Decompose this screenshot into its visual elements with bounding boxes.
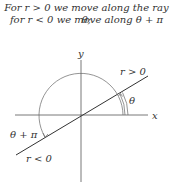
theta-label: θ [129,95,135,106]
x-axis-label: x [152,110,158,121]
ray-line [16,76,148,155]
theta-plus-pi-label: θ + π [10,129,38,140]
positive-ray-label: r > 0 [120,66,147,77]
negative-ray-label: r < 0 [26,153,53,164]
polar-ray-diagram: y x r > 0 θ θ + π r < 0 [0,0,173,187]
y-axis-label: y [77,48,84,59]
theta-arc-inner [120,94,125,115]
